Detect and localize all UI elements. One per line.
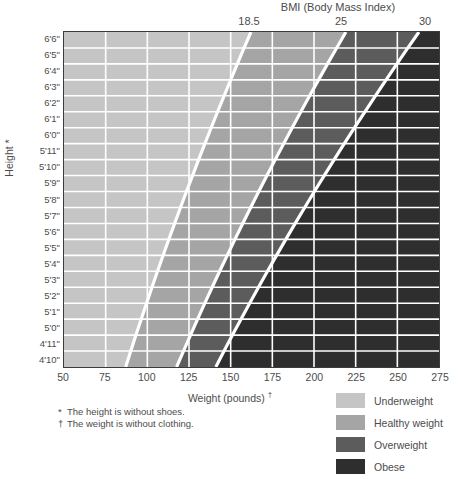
bmi-chart: BMI (Body Mass Index) 18.52530 6'6"6'5"6… — [0, 0, 458, 479]
legend-swatch-3 — [336, 459, 365, 474]
legend-item-3: Obese — [336, 456, 458, 477]
x-axis-title-text: Weight (pounds) — [188, 392, 268, 404]
footnotes: *The height is without shoes.†The weight… — [58, 406, 194, 430]
footnote-1: †The weight is without clothing. — [58, 418, 194, 430]
y-tick-label-20: 4'10" — [2, 355, 60, 365]
bmi-tick-0: 18.5 — [229, 15, 269, 27]
y-tick-label-13: 5'5" — [2, 243, 60, 253]
x-tick-label-1: 75 — [85, 371, 125, 383]
footnote-text-1: The weight is without clothing. — [67, 418, 194, 429]
legend-label-3: Obese — [374, 461, 405, 473]
y-tick-label-11: 5'7" — [2, 211, 60, 221]
plot-bands-and-grid — [64, 32, 439, 367]
y-tick-label-15: 5'3" — [2, 275, 60, 285]
legend-label-2: Overweight — [374, 439, 427, 451]
x-tick-label-6: 200 — [294, 371, 334, 383]
y-tick-label-18: 5'0" — [2, 323, 60, 333]
y-tick-label-5: 6'1" — [2, 114, 60, 124]
y-tick-label-4: 6'2" — [2, 98, 60, 108]
y-axis-title: Height * — [3, 128, 15, 188]
y-tick-label-0: 6'6" — [2, 34, 60, 44]
y-tick-label-19: 4'11" — [2, 339, 60, 349]
x-tick-label-8: 250 — [378, 371, 418, 383]
footnote-0: *The height is without shoes. — [58, 406, 194, 418]
x-tick-label-9: 275 — [420, 371, 458, 383]
x-tick-label-7: 225 — [336, 371, 376, 383]
legend-swatch-1 — [336, 415, 365, 430]
x-tick-label-0: 50 — [43, 371, 83, 383]
x-tick-label-5: 175 — [252, 371, 292, 383]
legend-item-1: Healthy weight — [336, 412, 458, 433]
legend-item-2: Overweight — [336, 434, 458, 455]
y-tick-label-16: 5'2" — [2, 291, 60, 301]
y-tick-label-12: 5'6" — [2, 227, 60, 237]
x-axis-title: Weight (pounds) † — [140, 390, 320, 404]
x-tick-label-2: 100 — [127, 371, 167, 383]
footnote-mark-0: * — [58, 406, 67, 418]
dagger-icon: † — [268, 390, 272, 399]
y-tick-label-3: 6'3" — [2, 82, 60, 92]
legend-swatch-0 — [336, 393, 365, 408]
bmi-tick-2: 30 — [405, 15, 445, 27]
footnote-mark-1: † — [58, 418, 67, 430]
y-tick-label-2: 6'4" — [2, 66, 60, 76]
y-tick-label-17: 5'1" — [2, 307, 60, 317]
legend-label-1: Healthy weight — [374, 417, 443, 429]
bmi-tick-1: 25 — [321, 15, 361, 27]
y-tick-label-1: 6'5" — [2, 50, 60, 60]
x-tick-label-3: 125 — [169, 371, 209, 383]
y-tick-label-10: 5'8" — [2, 195, 60, 205]
y-tick-label-14: 5'4" — [2, 259, 60, 269]
footnote-text-0: The height is without shoes. — [67, 406, 185, 417]
bmi-axis-title: BMI (Body Mass Index) — [218, 1, 458, 13]
legend: UnderweightHealthy weightOverweightObese — [336, 390, 458, 478]
legend-item-0: Underweight — [336, 390, 458, 411]
legend-label-0: Underweight — [374, 395, 433, 407]
plot-area — [63, 31, 440, 368]
x-tick-label-4: 150 — [211, 371, 251, 383]
y-axis: 6'6"6'5"6'4"6'3"6'2"6'1"6'0"5'11"5'10"5'… — [0, 31, 60, 368]
x-axis: 5075100125150175200225250275 — [63, 371, 440, 387]
legend-swatch-2 — [336, 437, 365, 452]
